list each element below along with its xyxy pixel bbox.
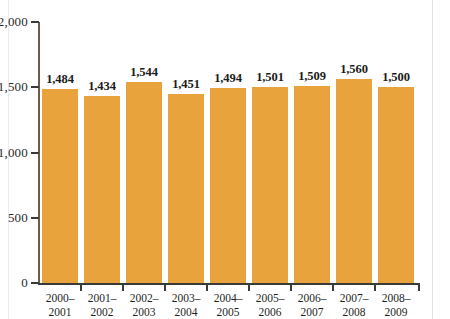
y-axis-tick [31, 86, 39, 88]
bar-value-label: 1,501 [252, 71, 288, 84]
category-label-line1: 2005– [256, 292, 285, 304]
category-label-line2: 2004 [164, 305, 208, 319]
category-label-line1: 2000– [46, 292, 75, 304]
bar-value-label: 1,500 [378, 71, 414, 84]
x-axis-category-label: 2005–2006 [248, 291, 292, 319]
bar [336, 79, 372, 283]
category-label-line2: 2003 [122, 305, 166, 319]
bar [294, 86, 330, 283]
x-axis-category-label: 2001–2002 [80, 291, 124, 319]
bar [378, 87, 414, 283]
category-label-line2: 2007 [290, 305, 334, 319]
category-label-line2: 2006 [248, 305, 292, 319]
x-axis-category-label: 2004–2005 [206, 291, 250, 319]
x-axis-tick [418, 285, 420, 291]
bar [84, 96, 120, 283]
x-axis-category-label: 2008–2009 [374, 291, 418, 319]
y-axis-tick-label: 2,000 [0, 15, 28, 28]
category-label-line2: 2001 [38, 305, 82, 319]
category-label-line2: 2008 [332, 305, 376, 319]
y-axis-tick-label: 1,000 [0, 146, 28, 159]
bar-value-label: 1,509 [294, 70, 330, 83]
bar [126, 82, 162, 283]
y-axis-tick [31, 282, 39, 284]
chart-page: 05001,0001,5002,000 1,4841,4341,5441,451… [0, 0, 450, 319]
page-edge-right-line [432, 0, 433, 319]
category-label-line1: 2004– [214, 292, 243, 304]
bar [168, 94, 204, 283]
category-label-line1: 2006– [298, 292, 327, 304]
y-axis-tick-label: 0 [21, 276, 28, 289]
bar-value-label: 1,434 [84, 80, 120, 93]
bar-value-label: 1,484 [42, 73, 78, 86]
y-axis-tick-label: 500 [8, 211, 28, 224]
bar-value-label: 1,451 [168, 78, 204, 91]
y-axis-tick [31, 21, 39, 23]
category-label-line2: 2009 [374, 305, 418, 319]
y-axis-tick [31, 152, 39, 154]
x-axis-category-label: 2006–2007 [290, 291, 334, 319]
bar-value-label: 1,560 [336, 63, 372, 76]
x-axis-category-label: 2003–2004 [164, 291, 208, 319]
x-axis-category-label: 2007–2008 [332, 291, 376, 319]
y-axis-tick-label: 1,500 [0, 80, 28, 93]
page-edge-left-line [8, 0, 9, 319]
category-label-line1: 2003– [172, 292, 201, 304]
bar-value-label: 1,494 [210, 72, 246, 85]
x-axis-category-label: 2000–2001 [38, 291, 82, 319]
x-axis-category-label: 2002–2003 [122, 291, 166, 319]
bar [210, 88, 246, 283]
y-axis-tick [31, 217, 39, 219]
category-label-line2: 2005 [206, 305, 250, 319]
category-label-line1: 2002– [130, 292, 159, 304]
bar [252, 87, 288, 283]
x-axis-line [38, 283, 420, 285]
category-label-line1: 2001– [88, 292, 117, 304]
bar [42, 89, 78, 283]
category-label-line1: 2007– [340, 292, 369, 304]
category-label-line2: 2002 [80, 305, 124, 319]
category-label-line1: 2008– [382, 292, 411, 304]
bar-value-label: 1,544 [126, 66, 162, 79]
